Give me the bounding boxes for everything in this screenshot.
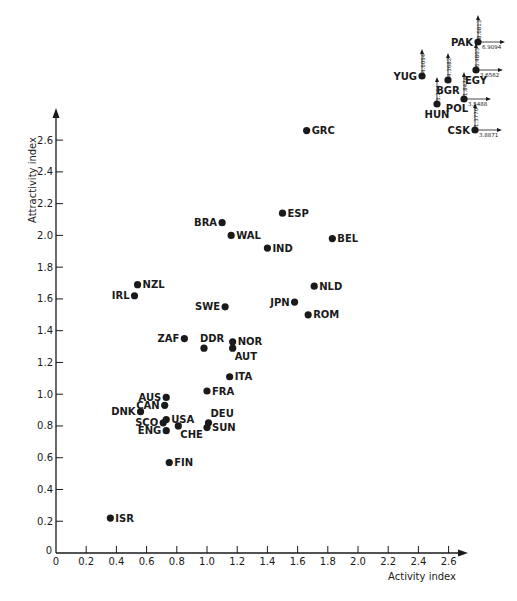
point-label: BEL bbox=[337, 233, 358, 244]
y-tick-label: 0.6 bbox=[37, 452, 53, 463]
y-tick-label: 1.4 bbox=[37, 325, 53, 336]
y-offscale-value: 3.244 bbox=[435, 85, 441, 101]
data-point bbox=[311, 283, 318, 290]
x-offscale-value: 3.8871 bbox=[479, 132, 498, 138]
data-point bbox=[305, 311, 312, 318]
point-label: NOR bbox=[238, 336, 263, 347]
x-axis-title: Activity index bbox=[388, 571, 456, 582]
point-label: USA bbox=[171, 414, 194, 425]
data-point bbox=[329, 235, 336, 242]
x-tick-label: 0.2 bbox=[78, 556, 94, 567]
data-point bbox=[229, 338, 236, 345]
point-label: GRC bbox=[312, 125, 335, 136]
point-label: ITA bbox=[235, 371, 253, 382]
y-tick-label: 1.2 bbox=[37, 357, 53, 368]
x-offscale-value: 3.5488 bbox=[468, 101, 488, 107]
x-tick-label: 0.4 bbox=[108, 556, 124, 567]
point-label: ISR bbox=[115, 513, 134, 524]
y-tick-label: 2.6 bbox=[37, 135, 53, 146]
x-tick-label: 1.6 bbox=[290, 556, 306, 567]
data-point bbox=[203, 387, 210, 394]
up-arrow-icon bbox=[435, 77, 439, 82]
y-offscale-value: 1.3770 bbox=[473, 107, 479, 127]
data-point bbox=[107, 514, 114, 521]
point-label: ESP bbox=[288, 208, 309, 219]
x-tick-label: 0.8 bbox=[169, 556, 185, 567]
plot-area: 00.20.40.60.81.01.21.41.61.82.02.22.42.6… bbox=[0, 0, 517, 601]
x-axis-arrow-icon bbox=[458, 550, 468, 557]
data-point bbox=[222, 303, 229, 310]
point-label: JPN bbox=[269, 297, 289, 308]
point-label: SWE bbox=[195, 301, 220, 312]
scatter-chart: 00.20.40.60.81.01.21.41.61.82.02.22.42.6… bbox=[0, 0, 517, 601]
y-offscale-value: 1.8474 bbox=[462, 76, 468, 96]
point-label: WAL bbox=[236, 230, 261, 241]
point-label: NLD bbox=[319, 281, 342, 292]
up-arrow-icon bbox=[476, 15, 480, 20]
y-axis-title: Attractivity index bbox=[27, 137, 38, 223]
point-label: DNK bbox=[111, 406, 137, 417]
y-tick-label: 0.8 bbox=[37, 420, 53, 431]
y-offscale-value: 8.6813 bbox=[476, 19, 482, 39]
x-tick-label: 2.2 bbox=[380, 556, 396, 567]
point-label: NZL bbox=[143, 279, 166, 290]
point-label: PAK bbox=[451, 37, 474, 48]
data-point bbox=[161, 402, 168, 409]
data-point bbox=[264, 245, 271, 252]
y-tick-label: 1.8 bbox=[37, 262, 53, 273]
point-label: DEU bbox=[211, 408, 234, 419]
x-tick-label: 1.4 bbox=[259, 556, 275, 567]
point-label: FRA bbox=[212, 386, 235, 397]
y-offscale-value: 6.4803 bbox=[474, 47, 480, 67]
point-label: DDR bbox=[200, 333, 225, 344]
data-point bbox=[303, 127, 310, 134]
x-tick-label: 2.0 bbox=[350, 556, 366, 567]
point-label: CSK bbox=[448, 125, 472, 136]
data-point bbox=[166, 459, 173, 466]
x-tick-label: 1.0 bbox=[199, 556, 215, 567]
point-label: AUT bbox=[235, 351, 258, 362]
point-label: FIN bbox=[174, 457, 193, 468]
data-point bbox=[226, 373, 233, 380]
data-point bbox=[163, 394, 170, 401]
x-offscale-value: 3.6562 bbox=[480, 72, 499, 78]
x-tick-label: 1.2 bbox=[229, 556, 245, 567]
point-label: ROM bbox=[313, 309, 339, 320]
y-tick-label: 0.4 bbox=[37, 484, 53, 495]
data-point bbox=[228, 232, 235, 239]
data-point bbox=[181, 335, 188, 342]
data-point bbox=[219, 219, 226, 226]
y-tick-label: 1.0 bbox=[37, 389, 53, 400]
x-tick-label: 0.6 bbox=[139, 556, 155, 567]
y-offscale-value: 4.3682 bbox=[446, 58, 452, 77]
data-point bbox=[137, 408, 144, 415]
data-point bbox=[163, 427, 170, 434]
y-tick-label: 2.0 bbox=[37, 230, 53, 241]
up-arrow-icon bbox=[420, 49, 424, 54]
point-label: IRL bbox=[112, 290, 130, 301]
point-label: IND bbox=[272, 243, 292, 254]
point-label: BRA bbox=[194, 217, 217, 228]
data-point bbox=[291, 298, 298, 305]
x-tick-label: 1.8 bbox=[320, 556, 336, 567]
point-label: YUG bbox=[392, 71, 417, 82]
point-label: POL bbox=[446, 103, 469, 114]
data-point bbox=[279, 210, 286, 217]
y-tick-label: 1.6 bbox=[37, 293, 53, 304]
x-tick-label: 2.6 bbox=[441, 556, 457, 567]
point-label: ZAF bbox=[158, 333, 180, 344]
y-tick-label: 0.2 bbox=[37, 516, 53, 527]
x-offscale-value: 6.9094 bbox=[482, 44, 502, 50]
point-label: CHE bbox=[180, 429, 203, 440]
data-point bbox=[200, 345, 207, 352]
y-tick-label: 2.2 bbox=[37, 198, 53, 209]
data-point bbox=[203, 424, 210, 431]
up-arrow-icon bbox=[446, 53, 450, 58]
data-point bbox=[131, 292, 138, 299]
y-axis-arrow-icon bbox=[53, 108, 60, 118]
point-label: SUN bbox=[212, 422, 236, 433]
x-tick-label: 0 bbox=[53, 556, 59, 567]
y-tick-label: 2.4 bbox=[37, 166, 53, 177]
x-tick-label: 2.4 bbox=[410, 556, 426, 567]
y-offscale-value: 4.6094 bbox=[420, 53, 426, 73]
